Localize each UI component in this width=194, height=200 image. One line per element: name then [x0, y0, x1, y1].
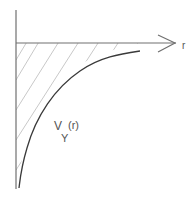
diagram-canvas — [0, 0, 194, 200]
curve-label-argument: (r) — [68, 120, 79, 131]
curve-label-subscript: Y — [61, 133, 68, 144]
axis-label-r: r — [182, 41, 185, 51]
potential-curve — [19, 51, 140, 188]
curve-label-main: V — [54, 120, 62, 132]
